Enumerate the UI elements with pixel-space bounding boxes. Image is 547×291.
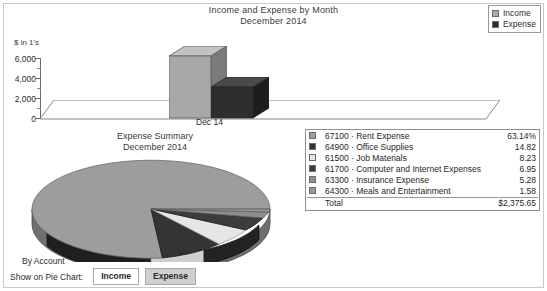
bar-chart-subtitle: December 2014 [0, 16, 547, 27]
legend-label-expense: Expense [503, 19, 536, 30]
y-tick-mark-2000 [35, 98, 41, 99]
row-account-name: 64300 · Meals and Entertainment [323, 186, 493, 198]
table-row[interactable]: 61700 · Computer and Internet Expenses 6… [307, 164, 538, 175]
pie-chart-controls: Show on Pie Chart: Income Expense [10, 268, 196, 285]
bar-chart-legend: Income Expense [488, 5, 541, 33]
row-swatch [307, 131, 323, 142]
show-on-pie-chart-label: Show on Pie Chart: [10, 272, 83, 282]
legend-swatch-expense [492, 21, 499, 28]
row-swatch [307, 175, 323, 186]
y-tick-2000: 2,000 [2, 94, 36, 104]
row-swatch [307, 142, 323, 153]
total-label: Total [323, 198, 493, 210]
bar-chart-title-block: Income and Expense by Month December 201… [0, 5, 547, 27]
row-value: 5.28 [493, 175, 538, 186]
row-account-name: 64900 · Office Supplies [323, 142, 493, 153]
report-panel: Income and Expense by Month December 201… [0, 0, 547, 291]
pie-chart-title: Expense Summary [117, 131, 193, 141]
row-value: 8.23 [493, 153, 538, 164]
y-tick-mark-5000 [37, 68, 41, 69]
row-account-name: 61700 · Computer and Internet Expenses [323, 164, 493, 175]
expense-account-table[interactable]: 67100 · Rent Expense 63.14% 64900 · Offi… [305, 129, 540, 211]
table-row[interactable]: 64900 · Office Supplies 14.82 [307, 142, 538, 153]
y-tick-mark-3000 [37, 88, 41, 89]
y-tick-6000: 6,000 [2, 54, 36, 64]
show-income-button[interactable]: Income [93, 268, 139, 285]
bar-chart-title: Income and Expense by Month [209, 5, 338, 15]
row-value: 6.95 [493, 164, 538, 175]
legend-item-expense: Expense [492, 19, 536, 30]
income-expense-bar-chart: Income and Expense by Month December 201… [0, 0, 547, 128]
legend-label-income: Income [503, 8, 531, 19]
row-account-name: 67100 · Rent Expense [323, 131, 493, 142]
table-total-row: Total $2,375.65 [307, 198, 538, 210]
row-swatch [307, 164, 323, 175]
table-row[interactable]: 61500 · Job Materials 8.23 [307, 153, 538, 164]
row-value: 63.14% [493, 131, 538, 142]
y-tick-mark-4000 [35, 78, 41, 79]
table-row[interactable]: 63300 · Insurance Expense 5.28 [307, 175, 538, 186]
table-row[interactable]: 67100 · Rent Expense 63.14% [307, 131, 538, 142]
y-tick-0: 0 [2, 114, 36, 124]
chart-floor-3d [40, 100, 500, 120]
pie-chart-title-block: Expense Summary December 2014 [60, 131, 250, 153]
row-account-name: 61500 · Job Materials [323, 153, 493, 164]
total-swatch-spacer [307, 198, 323, 210]
legend-swatch-income [492, 10, 499, 17]
legend-item-income: Income [492, 8, 536, 19]
row-swatch [307, 153, 323, 164]
x-axis-tick-label: Dec 14 [196, 117, 223, 127]
total-value: $2,375.65 [493, 198, 538, 210]
row-account-name: 63300 · Insurance Expense [323, 175, 493, 186]
y-tick-mark-6000 [35, 58, 41, 59]
row-value: 14.82 [493, 142, 538, 153]
show-expense-button[interactable]: Expense [145, 268, 196, 285]
row-value: 1.58 [493, 186, 538, 198]
table-row[interactable]: 64300 · Meals and Entertainment 1.58 [307, 186, 538, 198]
row-swatch [307, 186, 323, 198]
pie-chart-footer-label: By Account [22, 256, 65, 266]
y-axis-label: $ in 1's [14, 38, 39, 47]
pie-chart-subtitle: December 2014 [123, 142, 187, 152]
expense-pie-chart [28, 156, 274, 262]
bar-expense [211, 77, 253, 120]
y-tick-4000: 4,000 [2, 74, 36, 84]
bar-income [169, 46, 211, 120]
